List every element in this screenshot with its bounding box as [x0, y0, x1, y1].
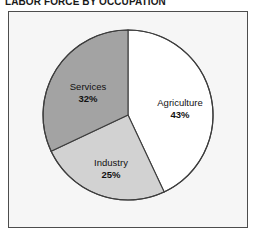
- pie-label-services: Services 32%: [53, 81, 123, 104]
- pie-label-services-name: Services: [53, 81, 123, 93]
- pie-chart-svg: [0, 0, 256, 237]
- pie-label-industry: Industry 25%: [76, 157, 146, 180]
- pie-chart: Agriculture 43% Services 32% Industry 25…: [0, 0, 256, 237]
- pie-label-industry-percent: 25%: [76, 169, 146, 181]
- pie-label-agriculture-percent: 43%: [143, 109, 217, 121]
- pie-label-agriculture: Agriculture 43%: [143, 97, 217, 120]
- pie-label-industry-name: Industry: [76, 157, 146, 169]
- pie-label-services-percent: 32%: [53, 93, 123, 105]
- pie-label-agriculture-name: Agriculture: [143, 97, 217, 109]
- chart-page: LABOR FORCE BY OCCUPATION Agriculture 43…: [0, 0, 256, 237]
